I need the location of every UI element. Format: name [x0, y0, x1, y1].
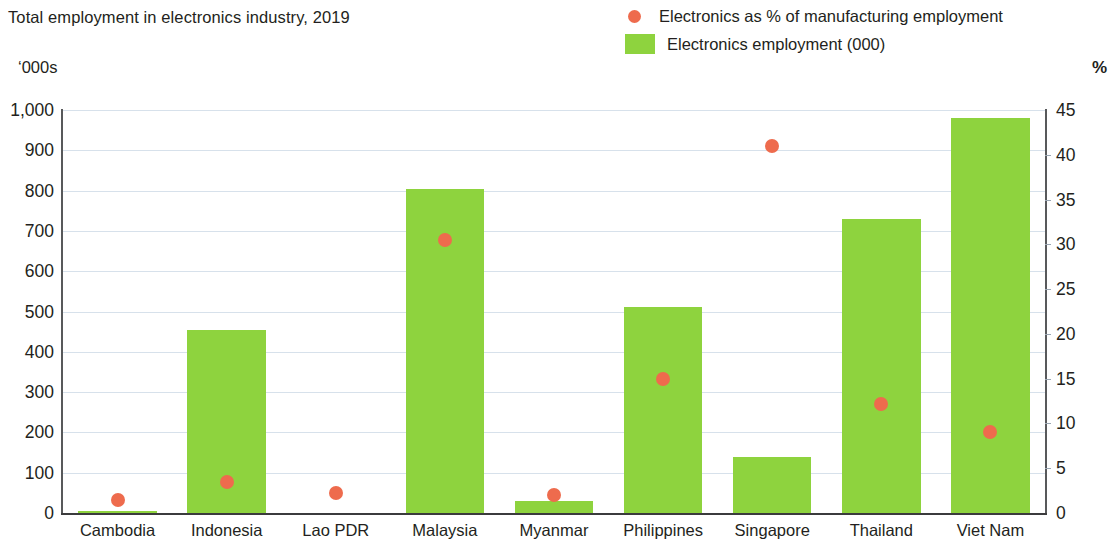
- right-axis-tick-label: 15: [1056, 368, 1075, 389]
- right-axis-tick-mark: [1045, 244, 1051, 245]
- category-label-thailand: Thailand: [850, 521, 913, 540]
- bar-group[interactable]: [63, 110, 172, 513]
- left-axis-tick-label: 900: [25, 140, 54, 161]
- chart-title: Total employment in electronics industry…: [8, 8, 350, 27]
- category-label-malaysia: Malaysia: [412, 521, 477, 540]
- left-axis-tick-label: 300: [25, 382, 54, 403]
- legend-dot-marker-icon: [628, 10, 641, 23]
- left-axis-tick-label: 0: [44, 503, 54, 524]
- bar[interactable]: [624, 307, 703, 513]
- bar[interactable]: [515, 501, 594, 513]
- left-axis-tick-label: 500: [25, 301, 54, 322]
- percent-dot-marker[interactable]: [765, 139, 779, 153]
- percent-dot-marker[interactable]: [983, 425, 997, 439]
- left-axis-tick-label: 200: [25, 422, 54, 443]
- bar-group[interactable]: [718, 110, 827, 513]
- bar-group[interactable]: [827, 110, 936, 513]
- bar-group[interactable]: [499, 110, 608, 513]
- percent-dot-marker[interactable]: [874, 397, 888, 411]
- category-label-indonesia: Indonesia: [191, 521, 263, 540]
- bar-group[interactable]: [936, 110, 1045, 513]
- percent-dot-marker[interactable]: [329, 486, 343, 500]
- left-axis-tick-label: 700: [25, 220, 54, 241]
- category-label-singapore: Singapore: [735, 521, 810, 540]
- category-label-lao-pdr: Lao PDR: [302, 521, 369, 540]
- right-axis-tick-label: 0: [1056, 503, 1066, 524]
- chart-legend: Electronics as % of manufacturing employ…: [625, 5, 1003, 55]
- right-axis-tick-label: 25: [1056, 279, 1075, 300]
- left-axis-unit-label: ‘000s: [18, 58, 57, 77]
- percent-dot-marker[interactable]: [220, 475, 234, 489]
- legend-label-employment: Electronics employment (000): [667, 35, 885, 54]
- right-axis-tick-mark: [1045, 200, 1051, 201]
- right-axis-tick-label: 5: [1056, 458, 1066, 479]
- category-label-myanmar: Myanmar: [520, 521, 589, 540]
- right-axis-tick-label: 30: [1056, 234, 1075, 255]
- bar-group[interactable]: [609, 110, 718, 513]
- category-label-viet-nam: Viet Nam: [957, 521, 1025, 540]
- right-axis-tick-label: 10: [1056, 413, 1075, 434]
- left-axis-tick-label: 100: [25, 462, 54, 483]
- legend-label-percent: Electronics as % of manufacturing employ…: [659, 7, 1003, 26]
- percent-dot-marker[interactable]: [438, 233, 452, 247]
- right-axis-tick-mark: [1045, 423, 1051, 424]
- bar-group[interactable]: [172, 110, 281, 513]
- bar-series: [63, 110, 1045, 513]
- category-label-cambodia: Cambodia: [80, 521, 155, 540]
- left-axis-tick-label: 1,000: [10, 100, 54, 121]
- right-axis-tick-label: 40: [1056, 144, 1075, 165]
- right-axis-tick-mark: [1045, 334, 1051, 335]
- percent-dot-marker[interactable]: [111, 493, 125, 507]
- percent-dot-marker[interactable]: [547, 488, 561, 502]
- right-axis-tick-label: 20: [1056, 323, 1075, 344]
- bar[interactable]: [733, 457, 812, 513]
- left-axis-tick-label: 800: [25, 180, 54, 201]
- right-axis-tick-mark: [1045, 468, 1051, 469]
- right-axis-tick-label: 45: [1056, 100, 1075, 121]
- bottom-axis-line: [61, 513, 1047, 515]
- chart-root: Total employment in electronics industry…: [0, 0, 1115, 545]
- right-axis-line: [1045, 109, 1047, 514]
- left-axis-tick-label: 400: [25, 341, 54, 362]
- bar[interactable]: [78, 511, 157, 513]
- legend-item-employment: Electronics employment (000): [625, 33, 1003, 55]
- percent-dot-marker[interactable]: [656, 372, 670, 386]
- bar[interactable]: [842, 219, 921, 513]
- left-axis-tick-label: 600: [25, 261, 54, 282]
- right-axis-tick-mark: [1045, 155, 1051, 156]
- legend-item-percent: Electronics as % of manufacturing employ…: [625, 5, 1003, 27]
- bar-group[interactable]: [281, 110, 390, 513]
- category-label-philippines: Philippines: [623, 521, 703, 540]
- right-axis-tick-mark: [1045, 289, 1051, 290]
- right-axis-tick-label: 35: [1056, 189, 1075, 210]
- bar-group[interactable]: [390, 110, 499, 513]
- right-axis-tick-mark: [1045, 379, 1051, 380]
- legend-bar-swatch-icon: [625, 34, 655, 54]
- right-axis-unit-label: %: [1092, 58, 1107, 78]
- plot-area: 01002003004005006007008009001,000 051015…: [63, 110, 1045, 513]
- bar[interactable]: [951, 118, 1030, 513]
